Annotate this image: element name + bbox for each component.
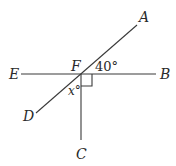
angle-label-40: 40° — [95, 59, 118, 74]
label-A: A — [137, 9, 149, 25]
label-E: E — [8, 66, 19, 82]
angle-label-x: x° — [68, 84, 81, 98]
geometry-diagram: A B C D E F 40° x° — [0, 0, 176, 166]
line-DA — [36, 25, 137, 113]
label-B: B — [159, 66, 170, 82]
label-C: C — [76, 146, 87, 162]
label-D: D — [22, 108, 34, 124]
right-angle-marker — [81, 74, 92, 86]
label-F: F — [70, 58, 82, 74]
